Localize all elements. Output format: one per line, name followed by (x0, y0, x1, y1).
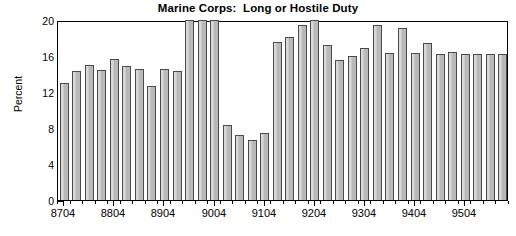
x-tick-mark (414, 201, 415, 206)
x-tick-label: 9504 (441, 207, 487, 219)
bar (398, 28, 407, 200)
chart-figure: Marine Corps: Long or Hostile Duty Perce… (0, 0, 516, 236)
x-tick-minor (395, 201, 396, 204)
x-tick-mark (264, 201, 265, 206)
x-tick-mark (214, 201, 215, 206)
bar (461, 54, 470, 200)
x-tick-minor (345, 201, 346, 204)
bar (198, 20, 207, 200)
x-tick-minor (483, 201, 484, 204)
x-tick-minor (145, 201, 146, 204)
x-tick-label: 8804 (90, 207, 136, 219)
bars-layer (58, 22, 507, 200)
x-tick-minor (120, 201, 121, 204)
bar (436, 54, 445, 200)
bar (173, 71, 182, 200)
bar (423, 43, 432, 201)
x-tick-minor (195, 201, 196, 204)
x-tick-minor (170, 201, 171, 204)
x-tick-minor (270, 201, 271, 204)
bar (335, 60, 344, 200)
bar (235, 135, 244, 200)
x-tick-label: 8704 (40, 207, 86, 219)
bar (385, 53, 394, 200)
bar (360, 48, 369, 200)
bar (285, 37, 294, 200)
bar (473, 54, 482, 200)
x-tick-minor (470, 201, 471, 204)
x-tick-minor (157, 201, 158, 204)
bar (135, 69, 144, 200)
bar (348, 56, 357, 200)
x-tick-mark (464, 201, 465, 206)
x-tick-label: 9304 (341, 207, 387, 219)
y-tick-label: 16 (14, 52, 54, 63)
bar (411, 53, 420, 200)
x-tick-minor (283, 201, 284, 204)
bar (498, 54, 507, 200)
x-tick-minor (445, 201, 446, 204)
bar (122, 66, 131, 200)
y-tick-label: 12 (14, 88, 54, 99)
bar (310, 20, 319, 200)
bar (210, 20, 219, 200)
x-tick-minor (232, 201, 233, 204)
x-tick-minor (370, 201, 371, 204)
bar (223, 125, 232, 200)
x-tick-minor (70, 201, 71, 204)
x-tick-minor (320, 201, 321, 204)
x-tick-minor (308, 201, 309, 204)
bar (185, 20, 194, 200)
bar (260, 133, 269, 200)
x-tick-minor (245, 201, 246, 204)
x-tick-minor (82, 201, 83, 204)
bar (486, 54, 495, 200)
x-tick-minor (458, 201, 459, 204)
x-tick-label: 8904 (140, 207, 186, 219)
x-tick-mark (113, 201, 114, 206)
x-tick-minor (295, 201, 296, 204)
x-tick-minor (257, 201, 258, 204)
y-tick-label: 8 (14, 124, 54, 135)
x-tick-minor (408, 201, 409, 204)
bar (147, 86, 156, 200)
bar (72, 71, 81, 200)
x-tick-minor (495, 201, 496, 204)
x-tick-minor (433, 201, 434, 204)
bar (97, 70, 106, 200)
bar (160, 69, 169, 200)
x-tick-label: 9204 (291, 207, 337, 219)
x-tick-minor (107, 201, 108, 204)
x-tick-label: 9404 (391, 207, 437, 219)
x-tick-minor (358, 201, 359, 204)
x-tick-mark (314, 201, 315, 206)
x-tick-minor (207, 201, 208, 204)
x-tick-minor (182, 201, 183, 204)
bar (373, 25, 382, 201)
bar (110, 59, 119, 200)
y-tick-label: 20 (14, 16, 54, 27)
bar (448, 52, 457, 200)
x-tick-minor (508, 201, 509, 204)
x-tick-minor (333, 201, 334, 204)
x-tick-minor (132, 201, 133, 204)
bar (298, 25, 307, 201)
x-tick-label: 9004 (191, 207, 237, 219)
x-tick-mark (163, 201, 164, 206)
x-tick-mark (364, 201, 365, 206)
x-tick-minor (57, 201, 58, 204)
bar (60, 83, 69, 200)
chart-title: Marine Corps: Long or Hostile Duty (0, 2, 516, 14)
bar (323, 45, 332, 200)
y-tick-label: 0 (14, 196, 54, 207)
x-tick-minor (420, 201, 421, 204)
x-tick-label: 9104 (241, 207, 287, 219)
x-tick-minor (220, 201, 221, 204)
y-tick-label: 4 (14, 160, 54, 171)
bar (273, 42, 282, 200)
x-tick-minor (383, 201, 384, 204)
x-tick-minor (95, 201, 96, 204)
plot-area (57, 21, 508, 201)
bar (248, 140, 257, 200)
x-tick-mark (63, 201, 64, 206)
